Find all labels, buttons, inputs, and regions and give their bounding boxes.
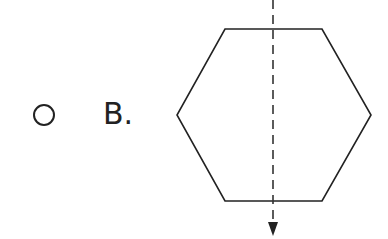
- hexagon-figure: [0, 0, 388, 239]
- arrow-down-icon: [268, 222, 278, 236]
- hexagon-shape: [177, 29, 371, 201]
- answer-option-b[interactable]: B.: [0, 0, 388, 239]
